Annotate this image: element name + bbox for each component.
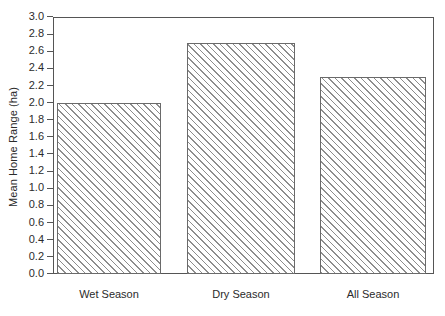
y-axis-tick <box>47 153 53 154</box>
y-axis-tick-label: 1.0 <box>14 182 44 193</box>
y-axis-tick-label: 0.8 <box>14 199 44 210</box>
y-axis-tick <box>47 136 53 137</box>
y-axis-tick-label: 1.2 <box>14 165 44 176</box>
y-axis-tick-label: 2.0 <box>14 97 44 108</box>
x-axis-label: All Season <box>320 288 426 300</box>
y-axis-tick <box>47 222 53 223</box>
bar <box>320 77 426 274</box>
y-axis-tick-label: 2.8 <box>14 28 44 39</box>
y-axis-tick-label: 0.2 <box>14 251 44 262</box>
y-axis-tick <box>47 273 53 274</box>
y-axis-tick <box>47 16 53 17</box>
y-axis-tick-label: 1.6 <box>14 131 44 142</box>
y-axis-tick <box>47 205 53 206</box>
y-axis-tick-label: 2.6 <box>14 45 44 56</box>
y-axis-tick <box>47 68 53 69</box>
x-axis-label: Wet Season <box>57 288 161 300</box>
y-axis-tick-label: 2.2 <box>14 80 44 91</box>
y-axis-tick <box>47 102 53 103</box>
y-axis-tick-label: 2.4 <box>14 62 44 73</box>
x-axis-label: Dry Season <box>187 288 295 300</box>
y-axis-tick-label: 0.4 <box>14 234 44 245</box>
y-axis-tick <box>47 85 53 86</box>
y-axis-tick-label: 1.4 <box>14 148 44 159</box>
y-axis-tick-label: 0.0 <box>14 268 44 279</box>
y-axis-tick <box>47 51 53 52</box>
y-axis-tick <box>47 34 53 35</box>
bar <box>187 43 295 274</box>
y-axis-tick-label: 3.0 <box>14 11 44 22</box>
y-axis-tick-label: 0.6 <box>14 217 44 228</box>
y-axis-tick <box>47 239 53 240</box>
y-axis-tick <box>47 188 53 189</box>
y-axis-tick <box>47 119 53 120</box>
bar-chart-figure: Mean Home Range (ha) 3.02.82.62.42.22.01… <box>0 0 445 316</box>
bar <box>57 103 161 274</box>
y-axis-tick-label: 1.8 <box>14 114 44 125</box>
y-axis-tick <box>47 171 53 172</box>
y-axis-tick <box>47 256 53 257</box>
